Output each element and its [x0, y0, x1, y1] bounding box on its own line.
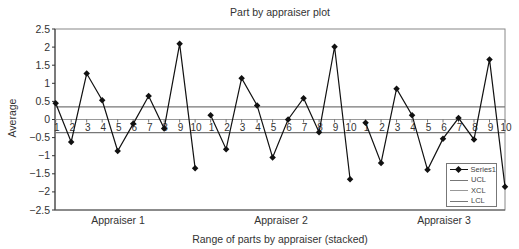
- data-point-marker: [393, 85, 400, 92]
- data-point-marker: [486, 56, 493, 63]
- group-label-appraiser-1: Appraiser 1: [58, 214, 178, 226]
- x-tick-label: 1: [54, 122, 60, 133]
- y-tick-label: 0.5: [35, 95, 50, 107]
- data-point-marker: [114, 148, 121, 155]
- data-point-marker: [269, 154, 276, 161]
- chart-title: Part by appraiser plot: [0, 6, 519, 18]
- legend-label: LCL: [471, 196, 485, 205]
- x-tick-label: 5: [116, 122, 122, 133]
- line-swatch-icon: [450, 185, 468, 195]
- legend-label: UCL: [471, 175, 486, 184]
- x-tick-label: 2: [379, 122, 385, 133]
- chart-canvas: 2.521.510.50−0.5−1−1.5−2−2.5 12345678910…: [0, 0, 519, 249]
- series1-line: [52, 41, 508, 190]
- group-label-appraiser-2: Appraiser 2: [221, 214, 341, 226]
- y-tick-label: 0: [44, 113, 50, 125]
- y-axis: 2.521.510.50−0.5−1−1.5−2−2.5: [29, 23, 55, 216]
- x-tick-label: 9: [488, 122, 494, 133]
- data-point-marker: [409, 112, 416, 119]
- data-point-marker: [424, 167, 431, 174]
- diamond-marker-icon: [450, 164, 468, 174]
- x-tick-label: 7: [147, 122, 153, 133]
- data-point-marker: [223, 146, 230, 153]
- y-tick-label: 2.5: [35, 23, 50, 35]
- x-tick-label: 3: [395, 122, 401, 133]
- data-point-marker: [145, 93, 152, 100]
- x-tick-label: 4: [100, 122, 106, 133]
- y-tick-label: −1.5: [29, 167, 50, 179]
- y-tick-label: −0.5: [29, 131, 50, 143]
- x-tick-label: 2: [224, 122, 230, 133]
- data-point-marker: [192, 165, 199, 172]
- legend: Series1 UCL XCL LCL: [446, 163, 497, 207]
- y-tick-label: −2.5: [29, 204, 50, 216]
- data-point-marker: [378, 160, 385, 167]
- data-point-marker: [68, 139, 75, 146]
- data-point-marker: [83, 70, 90, 77]
- legend-item-ucl: UCL: [447, 175, 496, 186]
- legend-item-lcl: LCL: [447, 196, 496, 207]
- legend-label: Series1: [471, 165, 496, 174]
- data-point-marker: [502, 184, 509, 191]
- x-tick-label: 5: [426, 122, 432, 133]
- data-point-marker: [238, 75, 245, 82]
- line-swatch-icon: [450, 196, 468, 206]
- x-tick-label: 3: [240, 122, 246, 133]
- control-lines: [55, 107, 505, 133]
- data-point-marker: [254, 102, 261, 109]
- group-label-appraiser-3: Appraiser 3: [384, 214, 504, 226]
- y-axis-label: Average: [6, 96, 18, 140]
- data-point-marker: [331, 43, 338, 50]
- x-tick-label: 6: [441, 122, 447, 133]
- x-tick-label: 9: [333, 122, 339, 133]
- data-point-marker: [207, 112, 214, 119]
- x-tick-label: 10: [346, 122, 358, 133]
- legend-item-xcl: XCL: [447, 185, 496, 196]
- x-tick-label: 3: [85, 122, 91, 133]
- line-swatch-icon: [450, 175, 468, 185]
- y-tick-label: −1: [38, 149, 50, 161]
- x-tick-label: 4: [255, 122, 261, 133]
- y-tick-label: 1: [44, 77, 50, 89]
- y-tick-label: 2: [44, 41, 50, 53]
- x-tick-label: 5: [271, 122, 277, 133]
- legend-item-series1: Series1: [447, 164, 496, 175]
- x-tick-label: 7: [302, 122, 308, 133]
- data-point-marker: [99, 97, 106, 104]
- data-point-marker: [176, 41, 183, 48]
- x-axis-label: Range of parts by appraiser (stacked): [55, 233, 505, 245]
- x-tick-label: 9: [178, 122, 184, 133]
- y-tick-label: 1.5: [35, 59, 50, 71]
- data-point-marker: [347, 176, 354, 183]
- x-tick-label: 10: [500, 122, 512, 133]
- x-tick-label: 10: [191, 122, 203, 133]
- legend-label: XCL: [471, 186, 486, 195]
- y-tick-label: −2: [38, 185, 50, 197]
